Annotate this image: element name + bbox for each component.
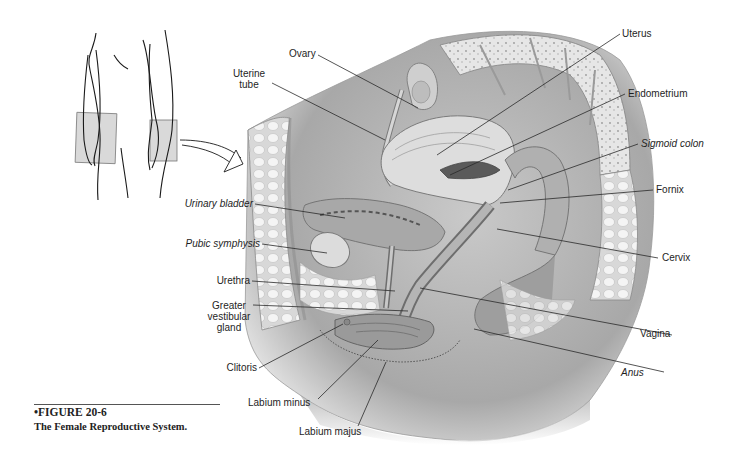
label-vagina: Vagina	[640, 328, 670, 339]
label-pubic-symphysis: Pubic symphysis	[170, 238, 260, 249]
label-greater-vestibular-gland: Greater vestibular gland	[205, 300, 253, 333]
label-uterine-tube-line1: Uterine	[226, 68, 272, 79]
label-sigmoid-colon: Sigmoid colon	[641, 138, 704, 149]
label-anus: Anus	[621, 367, 644, 378]
anatomy-illustration	[0, 0, 737, 464]
body-orientation-sketch	[75, 30, 243, 200]
caption-divider	[34, 404, 220, 405]
label-labium-majus: Labium majus	[299, 426, 361, 437]
label-uterine-tube: Uterine tube	[226, 68, 272, 90]
label-urethra: Urethra	[200, 275, 250, 286]
label-uterus: Uterus	[622, 28, 651, 39]
label-gvg-line3: gland	[205, 322, 253, 333]
label-gvg-line2: vestibular	[205, 311, 253, 322]
label-endometrium: Endometrium	[628, 88, 687, 99]
label-ovary: Ovary	[289, 48, 316, 59]
label-cervix: Cervix	[662, 252, 690, 263]
label-clitoris: Clitoris	[210, 362, 257, 373]
sagittal-section	[245, 31, 654, 445]
label-gvg-line1: Greater	[205, 300, 253, 311]
label-urinary-bladder: Urinary bladder	[170, 198, 253, 209]
figure-number: •FIGURE 20-6	[34, 406, 107, 418]
label-fornix: Fornix	[656, 184, 684, 195]
label-labium-minus: Labium minus	[248, 397, 310, 408]
figure-title: The Female Reproductive System.	[34, 421, 187, 432]
label-uterine-tube-line2: tube	[226, 79, 272, 90]
